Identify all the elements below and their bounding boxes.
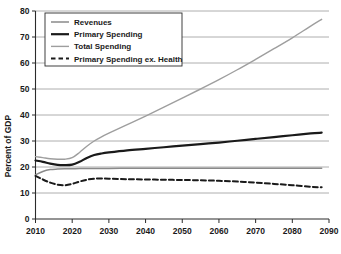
y-tick-label-10: 10 bbox=[20, 188, 30, 198]
x-tick-label-2030: 2030 bbox=[99, 226, 118, 236]
y-tick-label-20: 20 bbox=[20, 162, 30, 172]
x-tick-label-2060: 2060 bbox=[209, 226, 228, 236]
legend-label-revenues: Revenues bbox=[74, 18, 112, 27]
y-tick-label-0: 0 bbox=[25, 214, 30, 224]
y-tick-label-70: 70 bbox=[20, 32, 30, 42]
x-tick-label-2080: 2080 bbox=[283, 226, 302, 236]
x-tick-label-2070: 2070 bbox=[246, 226, 265, 236]
x-tick-label-2040: 2040 bbox=[136, 226, 155, 236]
y-tick-label-50: 50 bbox=[20, 84, 30, 94]
chart-legend: RevenuesPrimary SpendingTotal SpendingPr… bbox=[45, 13, 183, 66]
y-tick-label-60: 60 bbox=[20, 58, 30, 68]
x-tick-label-2090: 2090 bbox=[320, 226, 339, 236]
x-tick-label-2050: 2050 bbox=[173, 226, 192, 236]
legend-label-total-spending: Total Spending bbox=[74, 42, 131, 51]
y-axis-title: Percent of GDP bbox=[3, 115, 13, 178]
line-chart: 01020304050607080 2010202020302040205020… bbox=[0, 0, 341, 254]
y-tick-label-40: 40 bbox=[20, 110, 30, 120]
legend-label-primary-spending: Primary Spending bbox=[74, 30, 143, 39]
legend-label-primary-spending-ex-health: Primary Spending ex. Health bbox=[74, 55, 183, 64]
chart-container: 01020304050607080 2010202020302040205020… bbox=[0, 0, 341, 254]
x-tick-label-2020: 2020 bbox=[63, 226, 82, 236]
y-tick-label-30: 30 bbox=[20, 136, 30, 146]
y-tick-label-80: 80 bbox=[20, 6, 30, 16]
x-tick-label-2010: 2010 bbox=[26, 226, 45, 236]
